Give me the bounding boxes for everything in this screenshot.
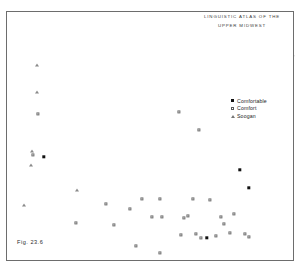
legend-item-comfort[interactable]: Comfort (228, 105, 290, 112)
map-marker-comfortable (247, 186, 250, 189)
map-title: Linguistic Atlas of the Upper Midwest (196, 13, 288, 30)
map-marker-comfortable (42, 155, 45, 158)
map-marker-comfort (134, 244, 137, 247)
map-marker-comfort (31, 153, 34, 156)
map-marker-comfort (160, 215, 163, 218)
open-square-icon (228, 107, 237, 110)
map-legend: Comfortable Comfort Soogan (228, 97, 290, 120)
map-marker-comfort (104, 202, 107, 205)
map-marker-comfort (191, 197, 194, 200)
map-marker-comfort (228, 231, 231, 234)
map-marker-comfortable (238, 168, 241, 171)
map-marker-comfort (222, 222, 225, 225)
map-marker-comfort (219, 215, 222, 218)
map-marker-comfort (243, 232, 246, 235)
map-marker-comfort (150, 215, 153, 218)
map-marker-comfort (112, 223, 115, 226)
figure-caption: Fig. 23.6 (17, 239, 43, 245)
figure-container: Linguistic Atlas of the Upper Midwest Co… (0, 0, 302, 271)
map-marker-comfort (177, 110, 180, 113)
map-marker-comfort (182, 216, 185, 219)
map-marker-comfort (214, 234, 217, 237)
map-marker-soogan (75, 189, 79, 192)
map-marker-comfort (140, 197, 143, 200)
map-marker-comfort (128, 207, 131, 210)
map-marker-comfort (186, 214, 189, 217)
map-marker-comfort (36, 112, 39, 115)
map-marker-soogan (29, 164, 33, 167)
map-marker-soogan (22, 204, 26, 207)
map-marker-comfort (247, 235, 250, 238)
map-marker-comfort (232, 212, 235, 215)
map-marker-soogan (30, 150, 34, 153)
filled-square-icon (228, 99, 237, 102)
map-marker-comfort (158, 197, 161, 200)
map-marker-comfort (194, 232, 197, 235)
map-marker-soogan (35, 64, 39, 67)
map-marker-comfort (179, 233, 182, 236)
legend-item-comfortable[interactable]: Comfortable (228, 97, 290, 104)
map-title-line-2: Upper Midwest (196, 22, 288, 31)
map-marker-comfortable (205, 236, 208, 239)
legend-label-comfort: Comfort (237, 105, 257, 111)
legend-item-soogan[interactable]: Soogan (228, 113, 290, 120)
legend-label-soogan: Soogan (237, 113, 256, 119)
map-marker-comfort (74, 221, 77, 224)
map-marker-comfort (197, 128, 200, 131)
map-marker-comfort (208, 198, 211, 201)
triangle-icon (228, 115, 237, 118)
map-marker-comfort (158, 251, 161, 254)
legend-label-comfortable: Comfortable (237, 98, 267, 104)
map-marker-soogan (35, 91, 39, 94)
map-border-frame (6, 11, 294, 261)
map-marker-comfort (199, 236, 202, 239)
map-title-line-1: Linguistic Atlas of the (196, 13, 288, 22)
